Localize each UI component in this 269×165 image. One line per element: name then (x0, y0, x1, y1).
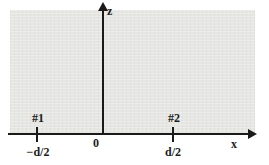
x-axis-label: x (231, 138, 237, 151)
shaded-region (10, 10, 255, 134)
point-1-coordinate-label: −d/2 (27, 146, 50, 159)
z-axis-line (102, 10, 104, 134)
point-2-coordinate-label: d/2 (165, 146, 181, 159)
tick-mark-point-1 (36, 127, 38, 142)
point-1-id-label: #1 (32, 112, 44, 125)
coordinate-diagram: z x 0 #1 #2 −d/2 d/2 (0, 0, 269, 165)
point-2-id-label: #2 (168, 112, 180, 125)
arrow-right-icon (248, 129, 257, 139)
origin-label: 0 (93, 137, 99, 150)
tick-mark-point-2 (172, 127, 174, 142)
z-axis-label: z (107, 5, 112, 18)
x-axis-line (8, 133, 249, 135)
